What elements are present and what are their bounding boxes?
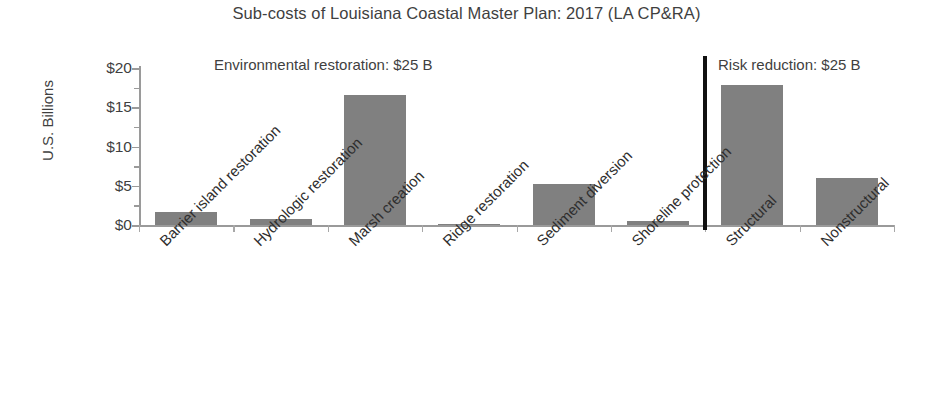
bar-chart: Sub-costs of Louisiana Coastal Master Pl… — [0, 0, 933, 404]
x-category-label: Marsh creation — [345, 167, 427, 249]
x-category-label: Hydrologic restoration — [250, 134, 365, 249]
x-category-label: Structural — [722, 192, 779, 249]
x-category-label: Nonstructural — [817, 174, 892, 249]
x-axis-category-labels: Barrier island restorationHydrologic res… — [0, 0, 933, 404]
x-category-label: Shoreline protection — [628, 143, 734, 249]
x-category-label: Sediment diversion — [533, 147, 635, 249]
x-category-label: Ridge restoration — [439, 156, 532, 249]
